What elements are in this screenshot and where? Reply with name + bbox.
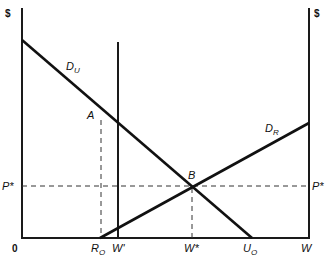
point-b-label: B xyxy=(188,169,195,181)
w-label: W xyxy=(301,242,313,254)
right-axis-label: $ xyxy=(314,8,320,19)
w-prime-label: W' xyxy=(112,242,125,254)
r-o-label: RO xyxy=(91,242,105,257)
left-axis-label: $ xyxy=(5,8,11,19)
diagram-canvas: $ $ DU DR A B P* P* 0 RO W' W* UO W xyxy=(0,0,325,259)
du-curve xyxy=(22,40,252,238)
p-star-left-label: P* xyxy=(2,180,14,192)
du-label: DU xyxy=(66,60,80,75)
u-o-label: UO xyxy=(243,242,257,257)
w-star-label: W* xyxy=(184,242,199,254)
origin-label: 0 xyxy=(12,243,18,254)
dr-label: DR xyxy=(265,122,279,137)
dr-curve xyxy=(100,123,309,238)
point-a-label: A xyxy=(86,109,94,121)
p-star-right-label: P* xyxy=(312,180,324,192)
